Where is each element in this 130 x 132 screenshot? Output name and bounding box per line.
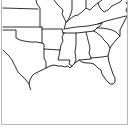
border-westvirginia-virginia: [98, 0, 122, 12]
border-southcarolina-northcarolina: [97, 28, 120, 36]
map-frame: [1, 0, 128, 125]
border-texas-rio-grande: [3, 50, 29, 84]
coast-florida-west: [79, 60, 110, 84]
coast-texas: [29, 68, 46, 90]
border-nebraska-kansas: [3, 8, 38, 9]
coast-atlantic: [108, 2, 128, 56]
border-louisiana-mississippi: [58, 50, 72, 66]
border-missouri-illinois: [54, 0, 66, 29]
border-illinois-indiana: [67, 0, 72, 22]
border-alabama-georgia: [86, 32, 91, 58]
border-mississippi-alabama: [74, 33, 76, 64]
border-arkansas-louisiana: [44, 49, 60, 50]
border-arkansas-east: [60, 33, 64, 50]
border-georgia-southcarolina: [94, 31, 110, 48]
border-alabama-florida: [79, 58, 91, 60]
state-borders-map: [2, 0, 128, 125]
border-tennessee-south: [63, 31, 94, 33]
border-texas-east: [42, 43, 46, 68]
border-georgia-florida: [91, 56, 108, 58]
coast-florida-east: [108, 56, 115, 84]
border-kansas-missouri: [36, 0, 40, 27]
border-missouri-arkansas: [42, 29, 64, 33]
border-oklahoma-texas-panhandle: [3, 30, 42, 43]
